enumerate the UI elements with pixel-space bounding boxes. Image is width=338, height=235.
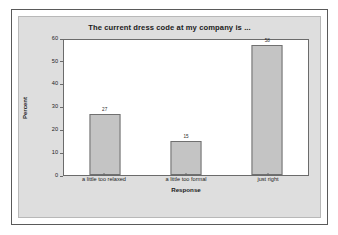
y-axis: Percent 0102030405060 [19, 39, 63, 176]
y-axis-tick-label: 40 [52, 80, 58, 86]
bar-series: 271558 [64, 40, 308, 175]
screenshot-root: The current dress code at my company is … [0, 0, 338, 235]
x-axis: Response a little too relaxeda little to… [63, 176, 309, 217]
bar[interactable] [252, 45, 283, 176]
x-axis-title: Response [63, 186, 309, 193]
x-axis-category-label: a little too formal [145, 176, 227, 182]
x-axis-tick-mark [104, 173, 105, 176]
bar-value-label: 15 [183, 134, 188, 139]
x-axis-tick-mark [186, 173, 187, 176]
bar[interactable] [89, 114, 120, 175]
bar-slot: 27 [64, 40, 145, 175]
y-axis-title: Percent [22, 96, 28, 118]
chart-title: The current dress code at my company is … [19, 23, 320, 32]
x-axis-category-label: just right [227, 176, 309, 182]
bar-slot: 15 [145, 40, 226, 175]
y-axis-tick-label: 50 [52, 58, 58, 64]
bar-value-label: 58 [265, 38, 270, 43]
y-axis-tick-label: 30 [52, 103, 58, 109]
y-axis-tick-label: 0 [55, 172, 58, 178]
bar-slot: 58 [227, 40, 308, 175]
figure-outer-frame: The current dress code at my company is … [11, 9, 328, 225]
chart-panel: The current dress code at my company is … [18, 16, 321, 218]
y-axis-tick-label: 20 [52, 126, 58, 132]
plot-area: 271558 [63, 39, 309, 176]
bar[interactable] [170, 141, 201, 175]
x-axis-tick-mark [268, 173, 269, 176]
x-axis-category-label: a little too relaxed [63, 176, 145, 182]
y-axis-tick-label: 10 [52, 149, 58, 155]
bar-chart-figure: The current dress code at my company is … [19, 17, 320, 217]
bar-value-label: 27 [102, 107, 107, 112]
y-axis-tick-label: 60 [52, 35, 58, 41]
